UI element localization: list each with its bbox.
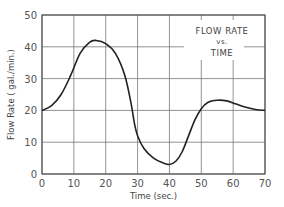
- y-tick-label: 40: [24, 42, 37, 53]
- chart-title-line2: vs.: [216, 38, 228, 46]
- y-tick-label: 20: [24, 105, 37, 116]
- y-tick-label: 50: [24, 10, 37, 21]
- y-tick-label: 0: [31, 169, 37, 180]
- chart-title-line1: FLOW RATE: [196, 26, 249, 36]
- y-tick-label: 30: [24, 74, 37, 85]
- x-axis-ticks: 010203040506070: [39, 178, 272, 189]
- x-tick-label: 40: [163, 178, 176, 189]
- x-tick-label: 30: [131, 178, 144, 189]
- y-axis-label: Flow Rate ( gal./min.): [6, 49, 16, 140]
- x-tick-label: 10: [67, 178, 80, 189]
- x-tick-label: 20: [99, 178, 112, 189]
- y-axis-ticks: 01020304050: [24, 10, 37, 180]
- chart-title-line3: TIME: [210, 48, 233, 58]
- x-tick-label: 50: [195, 178, 208, 189]
- x-tick-label: 70: [259, 178, 272, 189]
- x-tick-label: 0: [39, 178, 45, 189]
- flow-rate-chart: 010203040506070 01020304050 FLOW RATE vs…: [0, 0, 284, 207]
- x-axis-label: Time (sec.): [129, 191, 177, 201]
- y-tick-label: 10: [24, 137, 37, 148]
- x-tick-label: 60: [227, 178, 240, 189]
